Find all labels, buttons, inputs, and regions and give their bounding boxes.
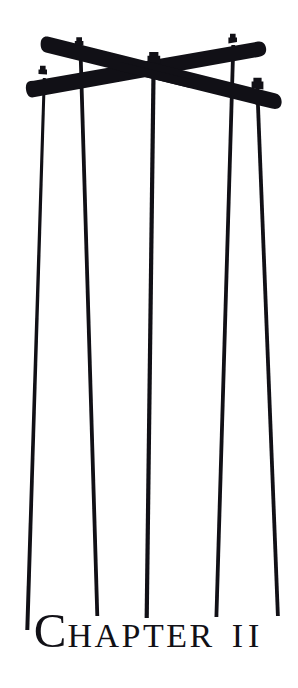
wire-1 — [25, 78, 46, 630]
chapter-heading-numeral: II — [232, 617, 265, 654]
chapter-heading: CHAPTERII — [0, 606, 298, 664]
chapter-opening-page: CHAPTERII — [0, 0, 298, 688]
illustration-wires — [25, 45, 279, 630]
crossarm-illustration — [0, 0, 298, 688]
chapter-heading-drop-cap: C — [34, 603, 68, 658]
wire-3 — [145, 58, 156, 618]
insulator-pin-4 — [228, 34, 237, 44]
wire-2 — [79, 50, 100, 616]
insulator-pin-3 — [148, 52, 161, 64]
wire-5 — [255, 88, 279, 616]
insulator-pin-5 — [252, 78, 264, 90]
insulator-pin-1 — [39, 66, 48, 75]
insulator-pin-2 — [75, 37, 84, 46]
wire-4 — [215, 45, 236, 617]
chapter-heading-word: HAPTER — [67, 617, 214, 654]
